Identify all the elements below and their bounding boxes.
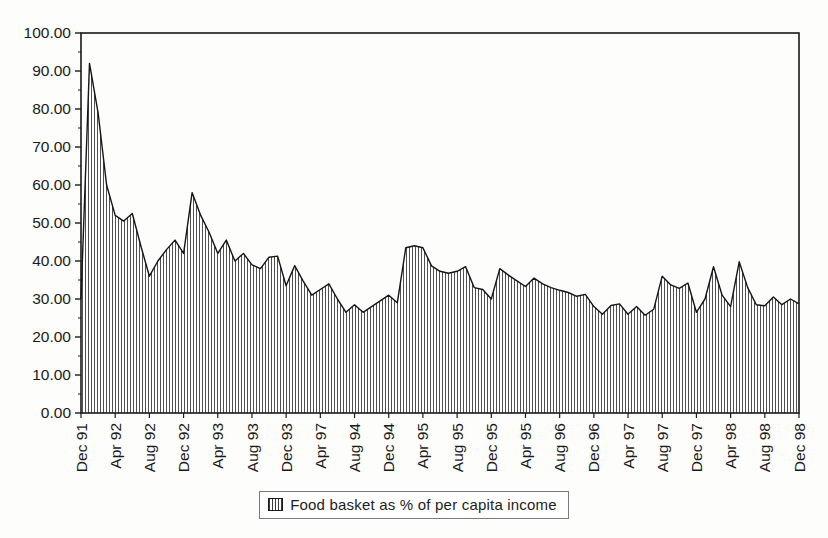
y-axis-label: 60.00	[32, 176, 71, 193]
y-axis-label: 20.00	[32, 328, 71, 345]
x-axis-label: Aug 93	[244, 423, 261, 472]
x-axis-label: Aug 95	[449, 423, 466, 472]
x-axis-label: Aug 96	[551, 423, 568, 472]
y-axis-label: 90.00	[32, 62, 71, 79]
area-chart: 0.0010.0020.0030.0040.0050.0060.0070.008…	[0, 0, 828, 491]
x-axis-label: Dec 91	[73, 423, 90, 472]
y-axis-label: 10.00	[32, 366, 71, 383]
x-axis-label: Aug 97	[654, 423, 671, 472]
x-axis-label: Dec 92	[175, 423, 192, 472]
x-axis-label: Apr 97	[312, 423, 329, 469]
y-axis-label: 80.00	[32, 100, 71, 117]
x-axis-label: Dec 97	[688, 423, 705, 472]
chart-legend: Food basket as % of per capita income	[259, 491, 569, 519]
x-axis-label: Apr 95	[414, 423, 431, 469]
x-axis-label: Dec 98	[791, 423, 808, 472]
x-axis-label: Apr 95	[517, 423, 534, 469]
x-axis-label: Aug 92	[141, 423, 158, 472]
y-axis-label: 30.00	[32, 290, 71, 307]
chart-legend-row: Food basket as % of per capita income	[0, 491, 828, 519]
legend-label: Food basket as % of per capita income	[290, 496, 557, 513]
x-axis-label: Dec 96	[585, 423, 602, 472]
x-axis-label: Apr 93	[209, 423, 226, 469]
y-axis-label: 70.00	[32, 138, 71, 155]
x-axis-label: Dec 95	[483, 423, 500, 472]
y-axis-label: 0.00	[41, 404, 72, 421]
x-axis-label: Dec 93	[278, 423, 295, 472]
x-axis-label: Apr 92	[107, 423, 124, 469]
y-axis-label: 50.00	[32, 214, 71, 231]
area-series-fill	[81, 63, 799, 413]
x-axis-label: Apr 97	[620, 423, 637, 469]
y-axis-label: 40.00	[32, 252, 71, 269]
x-axis-label: Aug 98	[756, 423, 773, 472]
y-axis-label: 100.00	[24, 24, 72, 41]
x-axis-label: Aug 94	[346, 423, 363, 473]
x-axis-label: Apr 98	[722, 423, 739, 469]
legend-swatch-pattern-icon	[268, 498, 283, 511]
chart-container: 0.0010.0020.0030.0040.0050.0060.0070.008…	[0, 0, 828, 538]
x-axis-label: Dec 94	[380, 423, 397, 472]
